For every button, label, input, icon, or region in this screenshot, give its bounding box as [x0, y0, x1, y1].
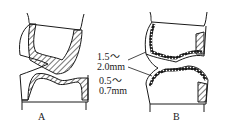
- dimension-2-line2: 0.7mm: [99, 86, 127, 96]
- panel-b-drawing: [145, 12, 208, 112]
- panel-a-label: A: [38, 112, 45, 122]
- panel-b-label: B: [173, 112, 180, 122]
- panel-a-drawing: [19, 13, 88, 110]
- leader-lines: [128, 52, 152, 76]
- dimension-1-line2: 2.0mm: [97, 62, 125, 72]
